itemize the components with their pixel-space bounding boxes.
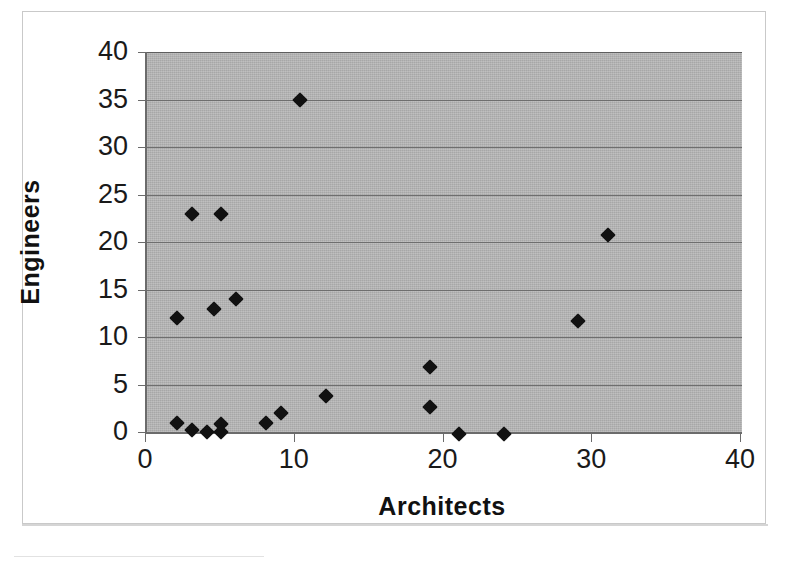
y-axis-tick-label-text: 40	[76, 38, 128, 65]
y-axis-tick-label-text: 20	[76, 228, 128, 255]
x-axis-tick	[145, 434, 146, 442]
x-axis-tick-label-text: 10	[279, 444, 309, 474]
data-point	[206, 301, 222, 317]
y-axis-tick-label: 25	[76, 181, 128, 209]
y-axis-tick-label: 40	[76, 38, 128, 66]
gridline	[147, 100, 742, 101]
y-axis-tick-label-text: 25	[76, 181, 128, 208]
y-axis-tick-label: 30	[76, 133, 128, 161]
y-axis-tick-label: 15	[76, 276, 128, 304]
x-axis-tick-label: 0	[105, 446, 185, 473]
gridline	[147, 52, 742, 53]
y-axis-tick	[138, 100, 145, 101]
gridline	[147, 385, 742, 386]
x-axis-tick	[443, 434, 444, 442]
y-axis-title: Engineers	[16, 179, 45, 304]
x-axis-tick-label: 30	[551, 446, 631, 473]
data-point	[169, 415, 185, 431]
gridline	[147, 147, 742, 148]
data-point	[292, 92, 308, 108]
data-point	[169, 310, 185, 326]
data-point	[452, 426, 468, 442]
data-point	[422, 360, 438, 376]
x-axis-tick	[294, 434, 295, 442]
gridline	[147, 337, 742, 338]
y-axis-tick	[138, 290, 145, 291]
data-point	[228, 291, 244, 307]
y-axis-tick-label: 35	[76, 86, 128, 114]
y-axis-tick	[138, 242, 145, 243]
x-axis-title: Architects	[378, 492, 505, 521]
y-axis-tick-label-text: 5	[76, 371, 128, 398]
y-axis-tick	[138, 147, 145, 148]
plot-area	[145, 52, 742, 434]
data-point	[571, 313, 587, 329]
y-axis-tick-label-text: 15	[76, 276, 128, 303]
y-axis-tick-label-text: 35	[76, 86, 128, 113]
x-axis-tick-label-text: 30	[576, 444, 606, 474]
data-point	[199, 424, 215, 440]
y-axis-tick-label: 0	[76, 418, 128, 446]
y-axis-tick	[138, 195, 145, 196]
data-point	[184, 422, 200, 438]
y-axis-tick	[138, 337, 145, 338]
x-axis-tick-label: 10	[254, 446, 334, 473]
x-axis-tick-label: 40	[700, 446, 780, 473]
x-axis-tick-label-text: 40	[725, 444, 755, 474]
gridline	[147, 242, 742, 243]
y-axis-tick-label: 10	[76, 323, 128, 351]
data-point	[258, 416, 274, 432]
data-point	[184, 206, 200, 222]
gridline	[147, 290, 742, 291]
scatter-chart: 4035302520151050 010203040 Engineers Arc…	[0, 0, 790, 571]
data-point	[273, 405, 289, 421]
y-axis-tick	[138, 432, 145, 433]
y-axis-tick-label: 5	[76, 371, 128, 399]
y-axis-tick-label-text: 30	[76, 133, 128, 160]
x-axis-tick-label-text: 0	[137, 444, 152, 474]
data-point	[318, 388, 334, 404]
gridline	[147, 195, 742, 196]
y-axis-tick-label: 20	[76, 228, 128, 256]
x-axis-tick	[591, 434, 592, 442]
y-axis-tick-label-text: 0	[76, 418, 128, 445]
data-point	[214, 206, 230, 222]
data-point	[422, 400, 438, 416]
x-axis-tick-label-text: 20	[427, 444, 457, 474]
data-point	[496, 426, 512, 442]
y-axis-tick-label-text: 10	[76, 323, 128, 350]
x-axis-tick-label: 20	[403, 446, 483, 473]
x-axis-tick	[740, 434, 741, 442]
data-point	[600, 228, 616, 244]
y-axis-tick	[138, 52, 145, 53]
y-axis-tick	[138, 385, 145, 386]
